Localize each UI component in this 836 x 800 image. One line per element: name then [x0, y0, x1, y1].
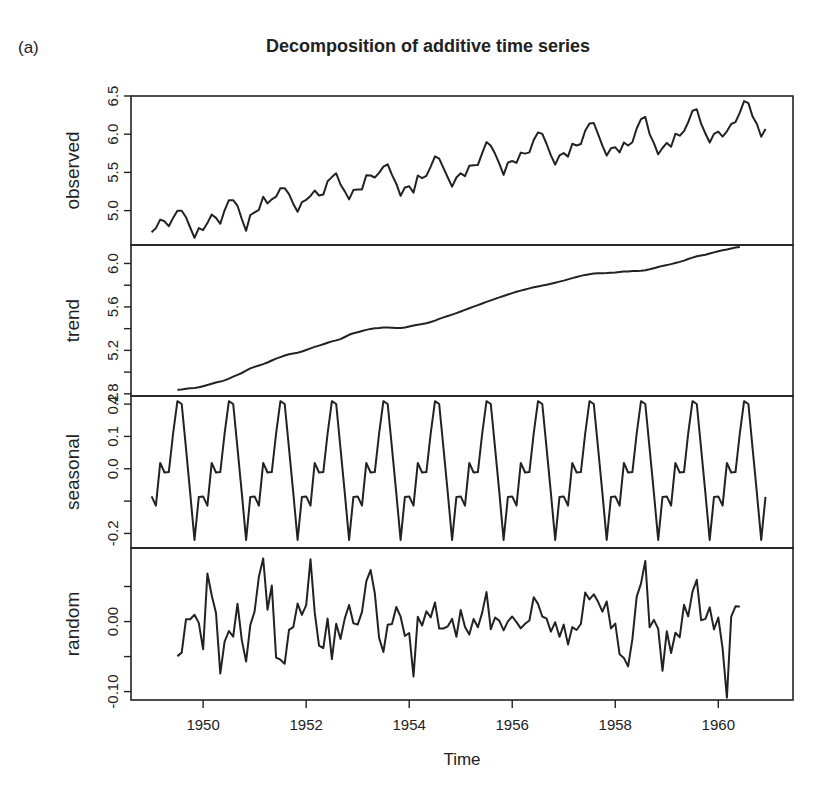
series-line-seasonal — [152, 401, 766, 540]
series-line-observed — [152, 101, 766, 238]
y-tick-label: 5.6 — [104, 296, 121, 317]
panel-frame — [131, 96, 793, 245]
x-axis-label: Time — [443, 750, 480, 769]
panel-observed: 5.05.56.06.5observed — [62, 86, 793, 245]
y-tick-label: 0.0 — [104, 458, 121, 479]
panel-label-seasonal: seasonal — [62, 434, 83, 510]
panel-frame — [131, 396, 793, 548]
panel-label-observed: observed — [62, 131, 83, 209]
y-tick-label: -0.2 — [104, 521, 121, 547]
x-tick-label: 1952 — [289, 716, 322, 733]
panel-random: -0.100.00random — [62, 548, 793, 709]
x-tick-label: 1954 — [393, 716, 426, 733]
x-tick-label: 1958 — [599, 716, 632, 733]
panel-trend: 4.85.25.66.0trend — [62, 245, 793, 404]
y-tick-label: 5.0 — [104, 200, 121, 221]
panel-label-random: random — [62, 592, 83, 656]
x-tick-label: 1960 — [702, 716, 735, 733]
y-tick-label: 6.0 — [104, 253, 121, 274]
decomposition-chart: 5.05.56.06.5observed4.85.25.66.0trend-0.… — [0, 0, 836, 800]
y-tick-label: 5.2 — [104, 340, 121, 361]
x-tick-label: 1956 — [496, 716, 529, 733]
y-tick-label: 0.2 — [104, 394, 121, 415]
y-tick-label: -0.10 — [104, 674, 121, 708]
panel-frame — [131, 245, 793, 396]
y-tick-label: 0.00 — [104, 607, 121, 636]
panels-group: 5.05.56.06.5observed4.85.25.66.0trend-0.… — [62, 86, 793, 709]
x-tick-label: 1950 — [186, 716, 219, 733]
series-line-random — [177, 559, 739, 698]
y-tick-label: 6.0 — [104, 124, 121, 145]
panel-frame — [131, 548, 793, 700]
series-line-trend — [177, 247, 739, 390]
y-tick-label: 6.5 — [104, 86, 121, 107]
x-axis: 195019521954195619581960 — [186, 700, 735, 733]
y-tick-label: 0.1 — [104, 426, 121, 447]
panel-seasonal: -0.20.00.10.2seasonal — [62, 394, 793, 548]
y-tick-label: 5.5 — [104, 162, 121, 183]
panel-label-trend: trend — [62, 299, 83, 342]
